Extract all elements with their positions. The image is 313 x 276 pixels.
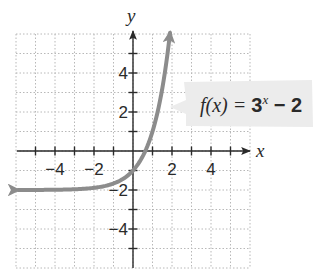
x-axis-label: x: [255, 140, 265, 161]
function-label: f(x) = 3x − 2: [170, 80, 313, 127]
y-tick-label: 4: [119, 64, 128, 83]
function-label-text: f(x) = 3x − 2: [200, 92, 302, 117]
x-tick-label: 4: [206, 160, 215, 179]
x-tick-label: 2: [167, 160, 176, 179]
x-tick-label: −2: [84, 160, 103, 179]
x-tick-label: −4: [45, 160, 64, 179]
y-tick-label: −4: [109, 220, 128, 239]
function-graph: −4 −2 2 4 4 2 −2 −4 x y f(x) = 3x − 2: [0, 0, 313, 276]
y-tick-label: 2: [119, 103, 128, 122]
y-axis-label: y: [125, 5, 136, 26]
